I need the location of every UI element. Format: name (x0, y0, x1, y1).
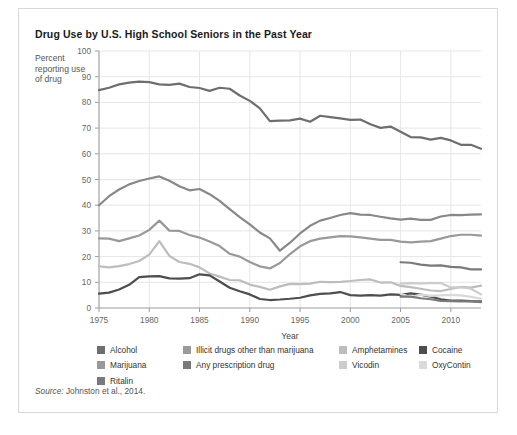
y-axis-tick-label: 30 (82, 226, 92, 236)
legend-item-label: OxyContin (432, 360, 471, 370)
y-axis-tick-label: 90 (82, 72, 92, 82)
x-axis-tick-label: 1990 (241, 315, 260, 325)
legend-swatch-icon (339, 361, 347, 369)
y-axis-tick-label: 80 (82, 97, 92, 107)
y-axis-tick-label: 70 (82, 123, 92, 133)
legend-column: AmphetaminesVicodin (339, 343, 407, 374)
legend-item-label: Cocaine (432, 345, 462, 355)
legend-item-label: Illicit drugs other than marijuana (196, 345, 314, 355)
legend-swatch-icon (419, 361, 427, 369)
chart-card: Drug Use by U.S. High School Seniors in … (18, 8, 498, 413)
legend-item-label: Alcohol (110, 345, 137, 355)
y-axis-tick-label: 100 (77, 46, 91, 56)
legend-swatch-icon (183, 361, 191, 369)
legend-item[interactable]: Any prescription drug (183, 359, 314, 372)
source-note: Source: Johnston et al., 2014. (35, 386, 145, 396)
x-axis-tick-label: 1980 (140, 315, 159, 325)
legend-item[interactable]: Alcohol (97, 343, 146, 356)
x-axis-tick-label: 1985 (190, 315, 209, 325)
legend-swatch-icon (97, 361, 105, 369)
legend-item[interactable]: OxyContin (419, 359, 471, 372)
x-axis-tick-label: 2005 (391, 315, 410, 325)
legend-item-label: Vicodin (352, 360, 379, 370)
x-axis-tick-label: 2000 (341, 315, 360, 325)
legend-item-label: Amphetamines (352, 345, 407, 355)
legend-item-label: Any prescription drug (196, 360, 274, 370)
legend-swatch-icon (97, 377, 105, 385)
legend-item[interactable]: Illicit drugs other than marijuana (183, 343, 314, 356)
y-axis-tick-label: 50 (82, 175, 92, 185)
x-axis-title: Year (281, 331, 299, 341)
legend-swatch-icon (419, 346, 427, 354)
x-axis-tick-label: 1995 (291, 315, 310, 325)
legend-item[interactable]: Cocaine (419, 343, 471, 356)
y-axis-tick-label: 40 (82, 200, 92, 210)
x-axis-tick-label: 1975 (90, 315, 109, 325)
legend-column: CocaineOxyContin (419, 343, 471, 374)
legend-item[interactable]: Marijuana (97, 359, 146, 372)
legend-item-label: Marijuana (110, 360, 146, 370)
legend-swatch-icon (183, 346, 191, 354)
y-axis-tick-label: 0 (86, 303, 91, 313)
legend-swatch-icon (97, 346, 105, 354)
source-label: Source: (35, 386, 64, 396)
legend-column: Illicit drugs other than marijuanaAny pr… (183, 343, 314, 374)
y-axis-tick-label: 10 (82, 277, 92, 287)
legend-item-label: Ritalin (110, 376, 133, 386)
legend-swatch-icon (339, 346, 347, 354)
y-axis-tick-label: 20 (82, 252, 92, 262)
legend-item[interactable]: Vicodin (339, 359, 407, 372)
legend-item[interactable]: Amphetamines (339, 343, 407, 356)
x-axis-tick-label: 2010 (442, 315, 461, 325)
legend-column: AlcoholMarijuanaRitalin (97, 343, 146, 390)
source-value: Johnston et al., 2014. (64, 386, 146, 396)
y-axis-tick-label: 60 (82, 149, 92, 159)
